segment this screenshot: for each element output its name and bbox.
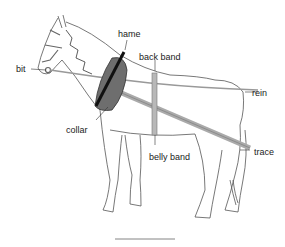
- horse-harness-illustration: [0, 0, 285, 247]
- horse-outline: [38, 15, 246, 218]
- collar-shape: [95, 58, 127, 111]
- label-belly-band: belly band: [149, 152, 190, 162]
- label-bit: bit: [16, 64, 26, 74]
- label-collar: collar: [66, 125, 88, 135]
- label-back-band: back band: [139, 52, 181, 62]
- back-band-strap: [152, 73, 157, 135]
- label-hame: hame: [118, 29, 141, 39]
- label-rein: rein: [252, 88, 267, 98]
- bridle: [42, 30, 62, 73]
- label-trace: trace: [254, 147, 274, 157]
